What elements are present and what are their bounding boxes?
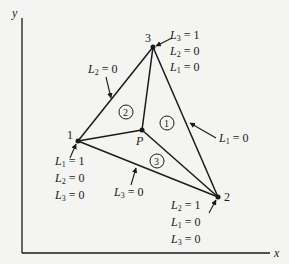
edge-1-3-label: L2 = 0 — [87, 62, 117, 98]
arrow-node-2 — [209, 200, 216, 213]
triangle-area-coordinates-diagram: y x 1 2 3 P 1 2 3 L3 = 1 L2 = 0 L1 = 0 — [0, 0, 289, 264]
svg-text:L3 = 0: L3 = 0 — [113, 185, 143, 200]
svg-text:L3 = 1: L3 = 1 — [169, 28, 199, 43]
svg-text:L2 = 1: L2 = 1 — [170, 198, 200, 213]
node-P-dot — [140, 128, 145, 133]
arrow-edge-3-2 — [190, 123, 216, 138]
arrow-edge-1-3 — [106, 77, 111, 98]
node-2-label: 2 — [224, 190, 230, 204]
arrow-edge-1-2 — [131, 168, 136, 185]
edge-P-1 — [78, 130, 142, 141]
svg-text:L1 = 0: L1 = 0 — [170, 215, 200, 230]
x-axis-label: x — [273, 246, 280, 260]
node-3-label: 3 — [145, 31, 151, 45]
svg-text:L1 = 0: L1 = 0 — [169, 60, 199, 75]
svg-text:L2 = 0: L2 = 0 — [87, 62, 117, 77]
region-2-label: 2 — [123, 107, 128, 118]
svg-text:L1 = 0: L1 = 0 — [218, 131, 248, 146]
node-P-label: P — [135, 134, 144, 148]
svg-text:L3 = 0: L3 = 0 — [170, 232, 200, 247]
y-axis-label: y — [11, 6, 18, 20]
node-1-dot — [76, 139, 81, 144]
node-1-coordinates: L1 = 1 L2 = 0 L3 = 0 — [54, 144, 84, 203]
node-2-dot — [216, 195, 221, 200]
region-markers: 1 2 3 — [119, 105, 174, 168]
region-3-label: 3 — [154, 156, 159, 167]
svg-text:L2 = 0: L2 = 0 — [54, 171, 84, 186]
svg-text:L2 = 0: L2 = 0 — [169, 44, 199, 59]
node-1-label: 1 — [67, 128, 73, 142]
svg-text:L1 = 1: L1 = 1 — [54, 154, 84, 169]
region-1-label: 1 — [164, 118, 169, 129]
node-3-dot — [151, 45, 156, 50]
edge-3-2-label: L1 = 0 — [190, 123, 248, 146]
svg-text:L3 = 0: L3 = 0 — [54, 188, 84, 203]
node-2-coordinates: L2 = 1 L1 = 0 L3 = 0 — [170, 198, 216, 247]
edge-1-2-label: L3 = 0 — [113, 168, 143, 200]
